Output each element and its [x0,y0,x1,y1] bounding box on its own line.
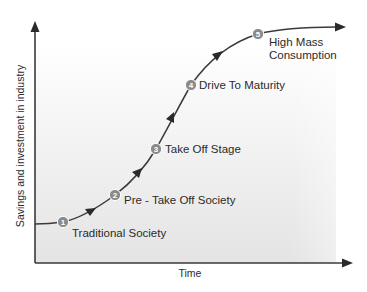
stage-2-number: 2 [113,191,118,200]
y-axis-label: Savings and investment in industry [14,64,26,227]
stage-3-label: Take Off Stage [165,143,241,155]
stage-2-label: Pre - Take Off Society [124,194,236,206]
y-axis-arrowhead-icon [31,21,40,32]
stage-5-label-line1: High Mass [269,36,324,48]
x-axis-arrowhead-icon [342,259,353,268]
curve-end-arrowhead-icon [335,23,346,32]
stage-1-number: 1 [61,218,66,227]
stage-5-label-line2: Consumption [269,49,337,61]
stages-of-growth-diagram: Savings and investment in industry Time … [0,0,367,292]
stage-4: 4 Drive To Maturity [185,79,285,91]
stage-1-label: Traditional Society [72,227,166,239]
stage-5-number: 5 [256,30,261,39]
stage-3-number: 3 [154,145,159,154]
stage-4-label: Drive To Maturity [199,79,285,91]
stage-4-number: 4 [189,81,194,90]
x-axis-label: Time [179,267,202,279]
